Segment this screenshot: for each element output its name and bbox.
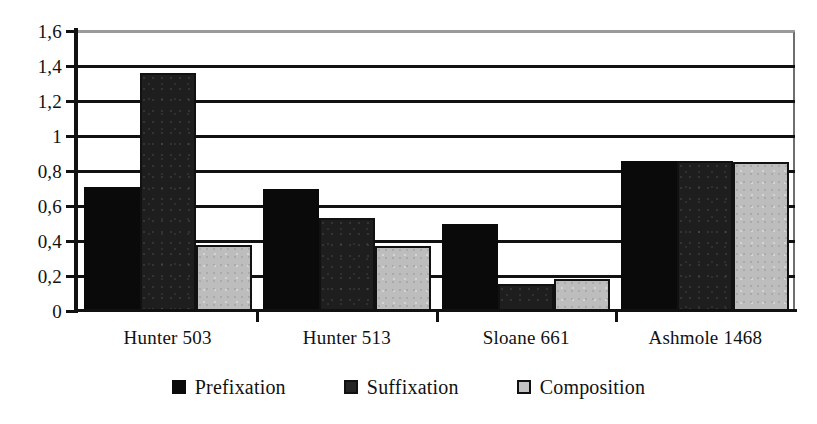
category-label-hunter-503: Hunter 503 <box>124 328 212 347</box>
bar-hunter-503-suffixation[interactable] <box>140 73 196 311</box>
y-axis-tick-label: 0,6 <box>38 197 62 216</box>
bar-sloane-661-composition[interactable] <box>554 279 610 311</box>
category-labels: Hunter 503Hunter 513Sloane 661Ashmole 14… <box>0 328 817 358</box>
bar-ashmole-1468-suffixation[interactable] <box>677 161 733 311</box>
y-axis-line <box>74 28 78 313</box>
y-axis-tick-label: 1 <box>52 127 62 146</box>
x-axis-tick <box>436 311 439 322</box>
bar-hunter-503-prefixation[interactable] <box>84 187 140 311</box>
legend-label-suffixation: Suffixation <box>367 377 459 397</box>
bar-group-ashmole-1468 <box>621 31 789 311</box>
legend-label-prefixation: Prefixation <box>195 377 286 397</box>
legend-item-suffixation[interactable]: Suffixation <box>344 377 459 397</box>
bar-hunter-513-prefixation[interactable] <box>263 189 319 312</box>
legend-item-prefixation[interactable]: Prefixation <box>172 377 286 397</box>
x-axis-tick <box>615 311 618 322</box>
bar-group-sloane-661 <box>442 31 610 311</box>
y-axis-tick-label: 1,6 <box>38 22 62 41</box>
bars-layer <box>78 31 795 311</box>
suffixation-swatch <box>344 380 358 394</box>
bar-sloane-661-prefixation[interactable] <box>442 224 498 312</box>
composition-swatch <box>517 380 531 394</box>
bar-ashmole-1468-composition[interactable] <box>733 162 789 311</box>
y-axis-tick-label: 1,2 <box>38 92 62 111</box>
bar-chart: 00,20,40,60,811,21,41,6 Hunter 503Hunter… <box>0 0 817 424</box>
prefixation-swatch <box>172 380 186 394</box>
y-axis-tick-label: 0,4 <box>38 232 62 251</box>
category-label-hunter-513: Hunter 513 <box>303 328 391 347</box>
bar-hunter-503-composition[interactable] <box>196 245 252 312</box>
bar-hunter-513-composition[interactable] <box>375 246 431 311</box>
bar-sloane-661-suffixation[interactable] <box>498 284 554 311</box>
y-axis-tick-label: 0,8 <box>38 162 62 181</box>
category-label-sloane-661: Sloane 661 <box>483 328 570 347</box>
plot-area: 00,20,40,60,811,21,41,6 <box>78 31 795 311</box>
y-axis-tick-label: 0,2 <box>38 267 62 286</box>
legend-label-composition: Composition <box>540 377 646 397</box>
y-axis-tick-label: 1,4 <box>38 57 62 76</box>
bar-hunter-513-suffixation[interactable] <box>319 218 375 311</box>
x-axis-tick <box>256 311 259 322</box>
bar-group-hunter-503 <box>84 31 252 311</box>
category-label-ashmole-1468: Ashmole 1468 <box>648 328 762 347</box>
legend-item-composition[interactable]: Composition <box>517 377 646 397</box>
y-axis-tick-label: 0 <box>52 302 62 321</box>
chart-legend: PrefixationSuffixationComposition <box>0 372 817 402</box>
bar-group-hunter-513 <box>263 31 431 311</box>
bar-ashmole-1468-prefixation[interactable] <box>621 161 677 311</box>
